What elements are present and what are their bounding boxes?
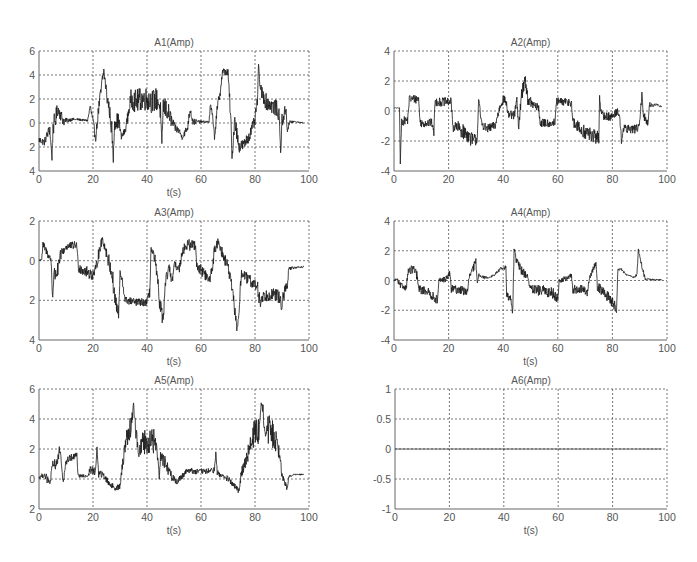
subplot-title: A2(Amp) xyxy=(511,37,550,48)
y-tick-label: 2 xyxy=(29,215,35,227)
y-tick-label: -1 xyxy=(382,503,391,515)
y-tick-label: 2 xyxy=(29,141,35,153)
x-tick-label: 40 xyxy=(497,342,509,354)
y-tick-label: 4 xyxy=(384,45,390,57)
y-tick-label: 0 xyxy=(29,255,35,267)
y-tick-label: 4 xyxy=(29,334,35,346)
x-tick-label: 60 xyxy=(552,342,564,354)
x-axis-label: t(s) xyxy=(167,525,181,536)
x-tick-label: 20 xyxy=(87,511,99,523)
x-tick-label: 100 xyxy=(300,342,318,354)
x-tick-label: 20 xyxy=(87,342,99,354)
subplot-title: A6(Amp) xyxy=(511,375,550,386)
subplot-title: A3(Amp) xyxy=(154,207,193,218)
x-tick-label: 60 xyxy=(195,511,207,523)
x-tick-label: 60 xyxy=(552,173,564,185)
subplot-title: A4(Amp) xyxy=(511,207,550,218)
x-tick-label: 40 xyxy=(141,173,153,185)
y-tick-label: 2 xyxy=(384,75,390,87)
subplot-title: A5(Amp) xyxy=(154,375,193,386)
y-tick-label: 2 xyxy=(29,93,35,105)
y-tick-label: 4 xyxy=(29,165,35,177)
x-tick-label: 40 xyxy=(498,511,510,523)
x-tick-label: 0 xyxy=(391,173,397,185)
y-tick-label: 4 xyxy=(29,69,35,81)
y-tick-label: 0.5 xyxy=(376,413,391,425)
x-axis-label: t(s) xyxy=(523,356,537,367)
y-tick-label: -4 xyxy=(381,334,390,346)
x-tick-label: 80 xyxy=(607,511,619,523)
y-tick-label: 0 xyxy=(384,105,390,117)
x-tick-label: 0 xyxy=(36,342,42,354)
x-tick-label: 0 xyxy=(392,511,398,523)
x-tick-label: 40 xyxy=(141,511,153,523)
x-axis-label: t(s) xyxy=(524,525,538,536)
x-axis-label: t(s) xyxy=(167,187,181,198)
y-tick-label: -0.5 xyxy=(373,473,391,485)
x-tick-label: 100 xyxy=(658,173,676,185)
y-tick-label: -4 xyxy=(381,165,390,177)
x-tick-label: 20 xyxy=(444,511,456,523)
x-tick-label: 20 xyxy=(443,173,455,185)
y-tick-label: 2 xyxy=(29,503,35,515)
x-tick-label: 100 xyxy=(300,511,318,523)
y-tick-label: 0 xyxy=(384,275,390,287)
y-tick-label: 4 xyxy=(29,413,35,425)
x-tick-label: 80 xyxy=(607,342,619,354)
x-tick-label: 80 xyxy=(607,173,619,185)
y-tick-label: 1 xyxy=(385,383,391,395)
x-tick-label: 60 xyxy=(195,342,207,354)
y-tick-label: 0 xyxy=(29,473,35,485)
y-tick-label: 0 xyxy=(29,117,35,129)
x-tick-label: 100 xyxy=(300,173,318,185)
x-tick-label: 0 xyxy=(36,173,42,185)
x-axis-label: t(s) xyxy=(167,356,181,367)
y-tick-label: 0 xyxy=(385,443,391,455)
figure: 020406080100420246A1(Amp)t(s)02040608010… xyxy=(0,0,697,562)
x-tick-label: 0 xyxy=(36,511,42,523)
x-tick-label: 0 xyxy=(391,342,397,354)
x-tick-label: 40 xyxy=(497,173,509,185)
x-tick-label: 20 xyxy=(87,173,99,185)
y-tick-label: 2 xyxy=(384,245,390,257)
y-tick-label: 2 xyxy=(29,443,35,455)
y-tick-label: -2 xyxy=(381,135,390,147)
x-tick-label: 60 xyxy=(195,173,207,185)
y-tick-label: 6 xyxy=(29,45,35,57)
y-tick-label: -2 xyxy=(381,304,390,316)
y-tick-label: 6 xyxy=(29,383,35,395)
x-tick-label: 80 xyxy=(249,511,261,523)
x-tick-label: 80 xyxy=(249,342,261,354)
x-tick-label: 80 xyxy=(249,173,261,185)
y-tick-label: 4 xyxy=(384,215,390,227)
x-tick-label: 100 xyxy=(658,342,676,354)
y-tick-label: 2 xyxy=(29,294,35,306)
x-tick-label: 60 xyxy=(552,511,564,523)
subplot-title: A1(Amp) xyxy=(154,37,193,48)
x-tick-label: 20 xyxy=(443,342,455,354)
x-tick-label: 100 xyxy=(658,511,676,523)
x-tick-label: 40 xyxy=(141,342,153,354)
